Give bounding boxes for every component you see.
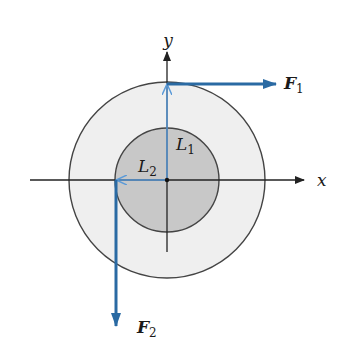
x-axis-label: x: [317, 170, 327, 190]
f1-label: F1: [283, 73, 304, 96]
y-axis-label: y: [162, 30, 173, 50]
f2-label: F2: [136, 317, 157, 340]
center-point: [165, 178, 169, 182]
diagram-canvas: y x L1 L2 F1 F2: [0, 0, 343, 360]
